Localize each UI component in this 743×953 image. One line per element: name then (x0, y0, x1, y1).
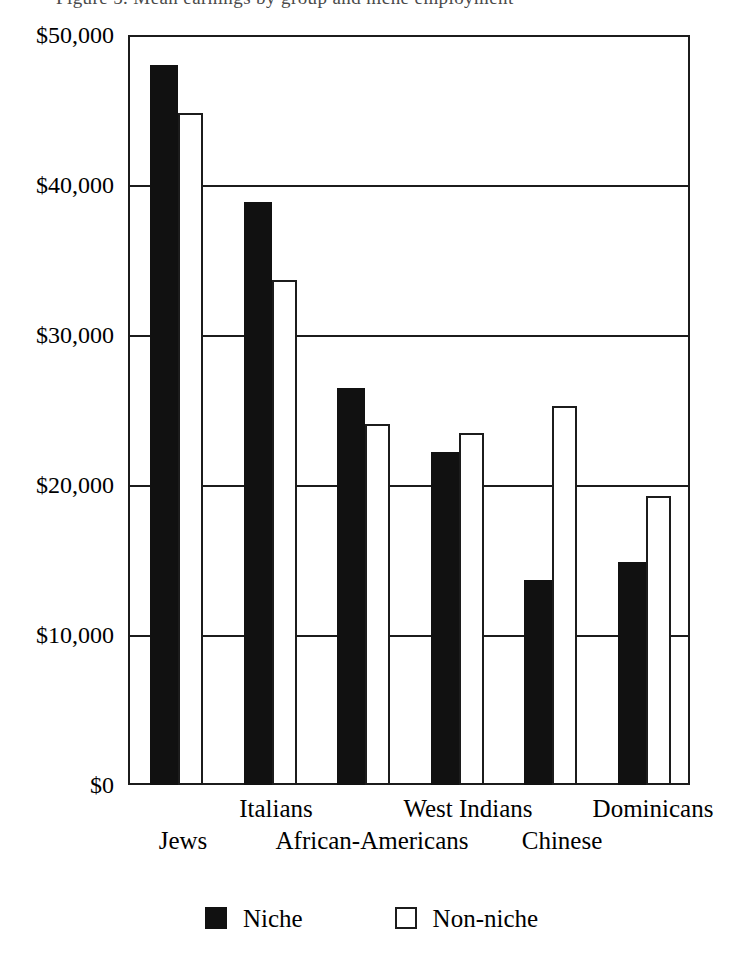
x-axis: Jews Italians African-Americans West Ind… (0, 0, 743, 953)
legend-entry-non-niche: Non-niche (395, 906, 539, 931)
x-label-jews: Jews (159, 827, 208, 854)
legend-label-niche: Niche (243, 906, 303, 931)
x-label-african-americans: African-Americans (276, 827, 469, 854)
filled-square-icon (205, 907, 227, 929)
x-label-west-indians: West Indians (403, 795, 532, 822)
x-label-italians: Italians (239, 795, 313, 822)
bar-chart: $50,000 $40,000 $30,000 $20,000 $10,000 … (0, 0, 743, 953)
legend-label-non-niche: Non-niche (433, 906, 539, 931)
x-label-chinese: Chinese (522, 827, 603, 854)
chart-legend: Niche Non-niche (0, 898, 743, 938)
x-label-dominicans: Dominicans (593, 795, 714, 822)
legend-entry-niche: Niche (205, 906, 303, 931)
hollow-square-icon (395, 907, 417, 929)
